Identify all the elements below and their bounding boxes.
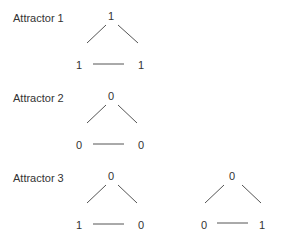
attractor-label: Attractor 3 <box>13 172 64 184</box>
node-right: 0 <box>136 139 146 151</box>
node-top: 0 <box>106 170 116 182</box>
node-left: 0 <box>199 219 209 231</box>
node-top: 1 <box>106 10 116 22</box>
edge-top-left <box>205 185 224 203</box>
attractor-label: Attractor 1 <box>13 12 64 24</box>
node-top: 0 <box>227 170 237 182</box>
edge-top-right <box>118 25 138 43</box>
edge-top-right <box>118 185 137 203</box>
edge-top-left <box>87 25 106 43</box>
edge-top-right <box>118 105 137 123</box>
edge-top-left <box>87 105 106 123</box>
edge-top-right <box>242 185 261 203</box>
node-left: 1 <box>74 219 84 231</box>
edge-top-left <box>87 185 106 203</box>
node-left: 0 <box>74 139 84 151</box>
node-right: 1 <box>257 219 267 231</box>
node-top: 0 <box>106 90 116 102</box>
attractor-label: Attractor 2 <box>13 92 64 104</box>
node-right: 0 <box>136 219 146 231</box>
node-left: 1 <box>74 59 84 71</box>
edge-layer <box>0 0 283 241</box>
node-right: 1 <box>136 59 146 71</box>
